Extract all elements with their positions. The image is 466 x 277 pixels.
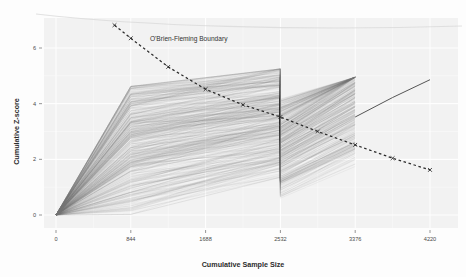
x-tick-label: 1688: [199, 236, 211, 242]
x-tick-label: 3376: [349, 236, 361, 242]
x-axis-title: Cumulative Sample Size: [202, 260, 285, 269]
y-axis-title: Cumulative Z-score: [12, 98, 21, 165]
boundary-annotation-label: O'Brien-Fleming Boundary: [150, 35, 228, 43]
x-tick-label: 0: [54, 236, 57, 242]
y-tick-label: 0: [33, 212, 36, 218]
z-score-spaghetti-chart: O'Brien-Fleming Boundary0844168825323376…: [0, 0, 466, 277]
x-axis: 08441688253233764220Cumulative Sample Si…: [54, 230, 436, 269]
y-tick-label: 2: [33, 156, 36, 162]
chart-figure: O'Brien-Fleming Boundary0844168825323376…: [0, 0, 466, 277]
x-tick-label: 4220: [424, 236, 436, 242]
y-axis: 0246Cumulative Z-score: [12, 45, 42, 218]
x-tick-label: 844: [126, 236, 135, 242]
x-tick-label: 2532: [274, 236, 286, 242]
y-tick-label: 6: [33, 45, 36, 51]
y-tick-label: 4: [33, 101, 36, 107]
